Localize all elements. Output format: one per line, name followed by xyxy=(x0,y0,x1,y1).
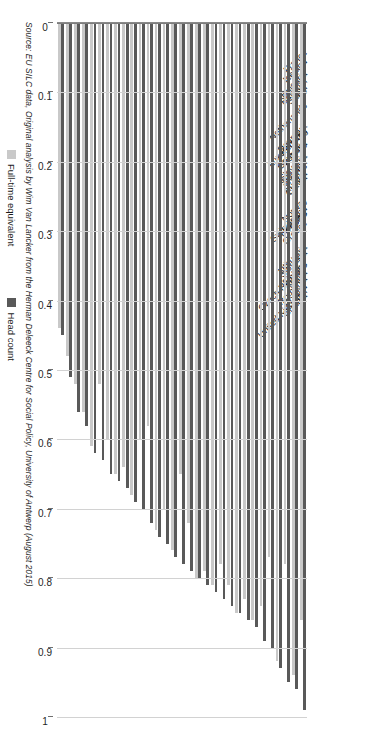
bar-full-time-equivalent xyxy=(268,23,271,557)
gridline xyxy=(57,301,307,302)
legend-label: Full-time equivalent xyxy=(6,164,17,246)
gridline xyxy=(57,509,307,510)
plot-area xyxy=(57,22,307,716)
legend-swatch-head xyxy=(7,298,16,307)
bar-head-count xyxy=(77,23,80,412)
axis-tick-label: 0.6 xyxy=(38,438,52,449)
bar-full-time-equivalent xyxy=(82,23,85,412)
bar-head-count xyxy=(231,23,234,606)
axis-tick-label: 0.1 xyxy=(38,91,52,102)
legend-entry: Full-time equivalent xyxy=(6,150,17,246)
bar-full-time-equivalent xyxy=(58,23,61,328)
bar-full-time-equivalent xyxy=(219,23,222,564)
bar-full-time-equivalent xyxy=(211,23,214,585)
bar-full-time-equivalent xyxy=(243,23,246,599)
axis-tick-label: 0.9 xyxy=(38,647,52,658)
gridline xyxy=(57,717,307,718)
bar-head-count xyxy=(142,23,145,509)
bar-full-time-equivalent xyxy=(235,23,238,613)
bar-head-count xyxy=(158,23,161,537)
bar-full-time-equivalent xyxy=(74,23,77,384)
bar-full-time-equivalent xyxy=(131,23,134,495)
bar-head-count xyxy=(303,23,306,710)
bar-head-count xyxy=(263,23,266,641)
legend-swatch-fte xyxy=(7,150,16,159)
bar-head-count xyxy=(223,23,226,599)
bar-head-count xyxy=(279,23,282,668)
bar-full-time-equivalent xyxy=(276,23,279,661)
axis-tick xyxy=(48,22,53,23)
axis-tick-label: 0 xyxy=(42,22,48,33)
bar-full-time-equivalent xyxy=(179,23,182,474)
bar-full-time-equivalent xyxy=(147,23,150,426)
legend-entry: Head count xyxy=(6,298,17,361)
bar-full-time-equivalent xyxy=(122,23,125,467)
bar-head-count xyxy=(247,23,250,620)
bar-full-time-equivalent xyxy=(187,23,190,523)
bar-head-count xyxy=(239,23,242,613)
axis-tick xyxy=(48,716,53,717)
bar-full-time-equivalent xyxy=(98,23,101,384)
gridline xyxy=(57,439,307,440)
bar-head-count xyxy=(182,23,185,564)
axis-tick-label: 0.4 xyxy=(38,300,52,311)
gridline xyxy=(57,578,307,579)
axis-tick-label: 0.2 xyxy=(38,161,52,172)
legend-label: Head count xyxy=(6,312,17,361)
bar-full-time-equivalent xyxy=(260,23,263,606)
gridline xyxy=(57,92,307,93)
bar-full-time-equivalent xyxy=(300,23,303,620)
axis-tick-label: 0.8 xyxy=(38,577,52,588)
bar-head-count xyxy=(174,23,177,557)
bar-head-count xyxy=(255,23,258,627)
gridline xyxy=(57,231,307,232)
bar-head-count xyxy=(190,23,193,571)
gridline xyxy=(57,370,307,371)
bar-full-time-equivalent xyxy=(227,23,230,585)
axis-tick-label: 0.3 xyxy=(38,230,52,241)
bar-head-count xyxy=(287,23,290,682)
bar-head-count xyxy=(94,23,97,453)
category-axis-labels: FranceIcelandBulgariaBelgiumNetherlandsS… xyxy=(309,22,355,716)
bar-head-count xyxy=(215,23,218,592)
bar-head-count xyxy=(271,23,274,648)
bar-full-time-equivalent xyxy=(251,23,254,620)
bar-full-time-equivalent xyxy=(155,23,158,530)
gridline xyxy=(57,162,307,163)
plot-canvas xyxy=(57,22,307,716)
bar-full-time-equivalent xyxy=(114,23,117,474)
chart-figure: FranceIcelandBulgariaBelgiumNetherlandsS… xyxy=(0,0,375,738)
bar-head-count xyxy=(166,23,169,544)
source-note: Source: EU SILC data, Original analysis … xyxy=(24,22,34,587)
bar-head-count xyxy=(85,23,88,426)
bar-head-count xyxy=(69,23,72,377)
axis-tick-label: 1 xyxy=(42,716,48,727)
bar-full-time-equivalent xyxy=(163,23,166,509)
bar-head-count xyxy=(206,23,209,585)
bar-full-time-equivalent xyxy=(66,23,69,356)
axis-tick-label: 0.5 xyxy=(38,369,52,380)
axis-baseline xyxy=(57,23,307,24)
bar-full-time-equivalent xyxy=(203,23,206,571)
bar-full-time-equivalent xyxy=(171,23,174,550)
bar-full-time-equivalent xyxy=(90,23,93,446)
bar-head-count xyxy=(295,23,298,689)
gridline xyxy=(57,648,307,649)
rotated-chart-stage: FranceIcelandBulgariaBelgiumNetherlandsS… xyxy=(0,0,375,738)
bar-head-count xyxy=(102,23,105,460)
bar-head-count xyxy=(150,23,153,523)
axis-tick-label: 0.7 xyxy=(38,508,52,519)
bar-head-count xyxy=(110,23,113,474)
bar-head-count xyxy=(61,23,64,335)
bar-full-time-equivalent xyxy=(284,23,287,564)
bar-head-count xyxy=(134,23,137,502)
chart-legend: Full-time equivalentHead count xyxy=(6,150,17,361)
